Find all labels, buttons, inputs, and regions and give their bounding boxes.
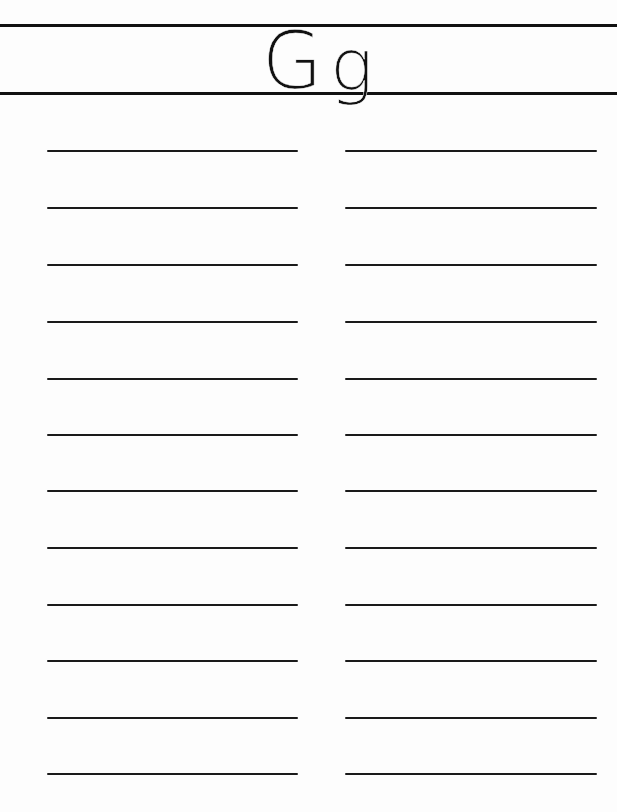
lowercase-letter: g [330,31,373,99]
writing-line-right-5 [345,378,597,380]
letter-header: G g [0,25,617,93]
writing-line-left-4 [47,321,298,323]
writing-line-right-3 [345,264,597,266]
writing-line-left-9 [47,604,298,606]
writing-line-left-12 [47,773,298,775]
writing-line-right-6 [345,434,597,436]
writing-line-right-1 [345,150,597,152]
writing-line-right-10 [345,660,597,662]
writing-line-right-7 [345,490,597,492]
writing-line-right-8 [345,547,597,549]
writing-line-left-5 [47,378,298,380]
writing-line-left-11 [47,717,298,719]
writing-line-right-9 [345,604,597,606]
writing-line-right-4 [345,321,597,323]
writing-line-right-11 [345,717,597,719]
writing-line-left-7 [47,490,298,492]
writing-line-left-2 [47,207,298,209]
writing-line-right-2 [345,207,597,209]
writing-line-left-3 [47,264,298,266]
uppercase-letter: G [262,27,322,95]
writing-line-left-8 [47,547,298,549]
writing-line-left-6 [47,434,298,436]
writing-line-left-1 [47,150,298,152]
writing-line-right-12 [345,773,597,775]
writing-line-left-10 [47,660,298,662]
